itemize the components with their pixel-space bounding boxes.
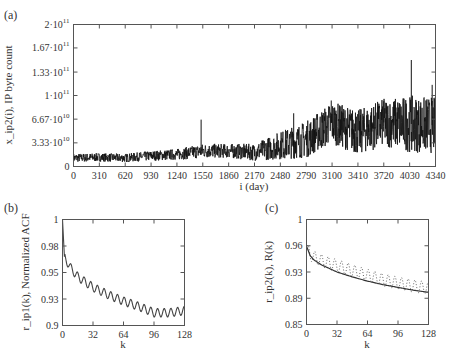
y-tick-label: 0.98 [41, 241, 59, 252]
a-y-axis-title: x_ip2(i), IP byte count [2, 45, 15, 144]
y-tick-label: 0.9 [46, 320, 59, 331]
x-tick-label: 4340 [426, 170, 446, 181]
y-tick-label: 0.89 [285, 293, 303, 304]
y-tick-label: 0.85 [285, 319, 303, 330]
x-tick-label: 32 [88, 329, 98, 340]
a-x-axis-title: i (day) [239, 180, 268, 193]
b-y-axis-title: r_ip1(k), Normalized ACF [19, 213, 32, 330]
x-tick-label: 2790 [296, 170, 316, 181]
panel-label-a: (a) [4, 8, 17, 22]
c-x-axis: 0326496128 [304, 220, 436, 339]
a-series-line [74, 60, 436, 162]
x-tick-label: 96 [149, 329, 159, 340]
acf-line [63, 220, 185, 317]
b-plot-frame [63, 220, 185, 326]
x-tick-label: 128 [421, 328, 436, 339]
ip-byte-count-line [74, 96, 436, 163]
x-tick-label: 1550 [193, 170, 213, 181]
x-tick-label: 930 [144, 170, 159, 181]
x-tick-label: 0 [60, 329, 65, 340]
x-tick-label: 32 [332, 328, 342, 339]
y-tick-label: 1.67·1011 [32, 40, 70, 53]
x-tick-label: 4030 [400, 170, 420, 181]
y-tick-label: 6.67·1010 [32, 112, 70, 125]
x-tick-label: 1240 [167, 170, 187, 181]
x-tick-label: 1860 [219, 170, 239, 181]
x-tick-label: 2480 [270, 170, 290, 181]
x-tick-label: 3410 [348, 170, 368, 181]
x-tick-label: 3100 [322, 170, 342, 181]
c-x-axis-title: k [364, 338, 370, 350]
b-series-line [63, 220, 185, 317]
panel-label-c: (c) [265, 201, 278, 215]
a-x-axis: 0310620930124015501860217024802790310034… [71, 25, 446, 181]
a-y-axis: 03.33·10106.67·10101·10111.33·10111.67·1… [32, 17, 436, 172]
a-plot-frame [74, 25, 436, 167]
x-tick-label: 620 [118, 170, 133, 181]
y-tick-label: 2·1011 [44, 17, 70, 30]
figure: (a) 031062093012401550186021702480279031… [0, 0, 455, 364]
y-tick-label: 1.33·1011 [32, 65, 70, 78]
empirical-acf-dotted-line [307, 245, 429, 294]
y-tick-label: 3.33·1010 [32, 135, 70, 148]
y-tick-label: 1 [298, 214, 303, 225]
y-tick-label: 0.96 [285, 240, 303, 251]
x-tick-label: 64 [363, 328, 373, 339]
y-tick-label: 0.95 [41, 267, 59, 278]
x-tick-label: 2170 [245, 170, 265, 181]
x-tick-label: 3720 [374, 170, 394, 181]
y-tick-label: 1·1011 [44, 88, 70, 101]
y-tick-label: 1 [54, 214, 59, 225]
x-tick-label: 0 [304, 328, 309, 339]
b-x-axis-title: k [120, 338, 126, 350]
c-y-axis-title: r_ip2(k), R(k) [262, 241, 275, 303]
panel-label-b: (b) [4, 201, 18, 215]
panel-b-acf: (b) 0326496128 0.90.930.950.981 k r_ip1(… [4, 201, 192, 350]
x-tick-label: 96 [393, 328, 403, 339]
y-tick-label: 0.93 [41, 294, 59, 305]
x-tick-label: 128 [177, 329, 192, 340]
x-tick-label: 310 [92, 170, 107, 181]
y-tick-label: 0 [65, 161, 70, 172]
panel-c-model-fit: (c) 0326496128 0.850.890.930.961 k r_ip2… [262, 201, 436, 350]
y-tick-label: 0.93 [285, 267, 303, 278]
panel-a-timeseries: (a) 031062093012401550186021702480279031… [2, 8, 446, 193]
c-series-lines [307, 245, 429, 294]
x-tick-label: 0 [71, 170, 76, 181]
